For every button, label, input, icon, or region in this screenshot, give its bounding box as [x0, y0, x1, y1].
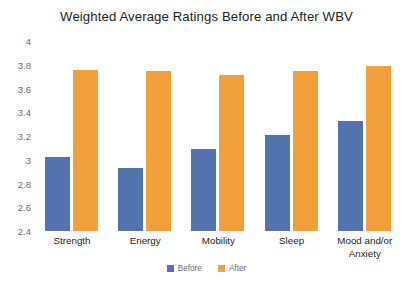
bar-pair: [110, 41, 183, 231]
bar-after[interactable]: [73, 70, 98, 232]
legend-item-before[interactable]: Before: [167, 264, 202, 273]
y-axis-tick-label: 3.2: [18, 131, 31, 142]
bar-group: Mood and/or Anxiety: [330, 41, 403, 231]
bar-group: Strength: [37, 41, 110, 231]
bar-after[interactable]: [293, 71, 318, 231]
bar-after[interactable]: [146, 71, 171, 231]
bar-group: Energy: [110, 41, 183, 231]
bar-before[interactable]: [191, 149, 216, 231]
y-axis-tick-label: 4: [26, 36, 31, 47]
bar-pair: [183, 41, 256, 231]
legend-swatch-icon: [167, 265, 174, 272]
bar-before[interactable]: [45, 157, 70, 231]
x-axis-category-label: Mood and/or Anxiety: [322, 235, 408, 260]
y-axis-tick-label: 3.6: [18, 83, 31, 94]
bar-group: Sleep: [257, 41, 330, 231]
y-axis-tick-label: 2.8: [18, 178, 31, 189]
bar-after[interactable]: [366, 66, 391, 231]
bar-pair: [330, 41, 403, 231]
legend-swatch-icon: [218, 265, 225, 272]
y-axis-tick-label: 2.6: [18, 202, 31, 213]
chart-title: Weighted Average Ratings Before and Afte…: [0, 9, 413, 24]
bar-pair: [37, 41, 110, 231]
y-axis-tick-label: 3.8: [18, 59, 31, 70]
bar-before[interactable]: [118, 168, 143, 231]
bar-after[interactable]: [219, 75, 244, 231]
legend-label: After: [229, 264, 246, 273]
chart-page: Weighted Average Ratings Before and Afte…: [0, 0, 413, 291]
y-axis-tick-label: 3.4: [18, 107, 31, 118]
bar-group: Mobility: [183, 41, 256, 231]
chart-legend: BeforeAfter: [0, 264, 413, 273]
legend-item-after[interactable]: After: [218, 264, 246, 273]
plot-area: 43.83.63.43.232.82.62.4StrengthEnergyMob…: [37, 41, 403, 231]
y-axis-tick-label: 3: [26, 154, 31, 165]
bar-before[interactable]: [265, 135, 290, 231]
bar-before[interactable]: [338, 121, 363, 231]
bar-pair: [257, 41, 330, 231]
legend-label: Before: [178, 264, 202, 273]
